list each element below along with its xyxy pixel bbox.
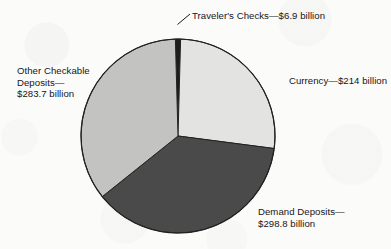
pie-slice-currency: Currency—$214 billion [178,39,275,148]
slice-label-currency: Currency—$214 billion [289,75,387,87]
slice-label-demand-deposits: Demand Deposits— $298.8 billion [258,206,345,229]
pie-chart: Traveler's Checks—$6.9 billionCurrency—$… [0,0,391,249]
slice-label-travelers-checks: Traveler's Checks—$6.9 billion [192,10,325,22]
pie-slice-group: Traveler's Checks—$6.9 billionCurrency—$… [81,39,275,233]
leader-line-travelers-checks [178,14,191,25]
slice-label-other-checkable-deposits: Other Checkable Deposits— $283.7 billion [17,65,90,100]
